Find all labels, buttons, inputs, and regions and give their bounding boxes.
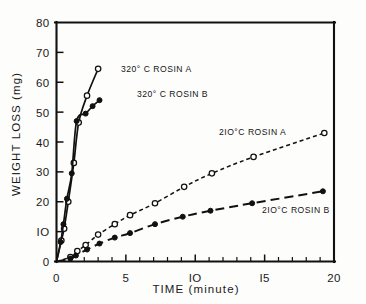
series-3: [57, 189, 326, 262]
data-point: [209, 171, 214, 176]
series-annotation-0: 320° C ROSIN A: [121, 64, 192, 74]
y-ticklabel-20: 20: [36, 196, 50, 208]
data-point: [69, 171, 74, 176]
data-point: [180, 214, 185, 219]
data-point: [85, 247, 90, 252]
data-point: [68, 256, 73, 261]
data-point: [90, 104, 95, 109]
data-point: [251, 154, 256, 159]
x-ticklabel-5: 5: [122, 272, 129, 284]
chart-figure: 0IO20304050607080 05IOI520 WEIGHT LOSS (…: [0, 0, 366, 304]
y-ticklabel-50: 50: [36, 107, 50, 119]
series-annotation-2: 2IO°C ROSIN A: [219, 127, 286, 137]
data-point: [152, 201, 157, 206]
data-point: [322, 130, 327, 135]
series-1: [57, 98, 103, 262]
x-ticklabel-20: 20: [327, 272, 341, 284]
data-point: [250, 201, 255, 206]
data-point: [95, 232, 100, 237]
y-ticklabel-60: 60: [36, 77, 50, 89]
data-point: [112, 235, 117, 240]
data-point: [73, 253, 78, 258]
weight-loss-vs-time-chart: 0IO20304050607080 05IOI520 WEIGHT LOSS (…: [0, 0, 366, 304]
series-0: [57, 66, 101, 261]
data-point: [208, 208, 213, 213]
data-point: [153, 222, 158, 227]
data-point: [127, 212, 132, 217]
y-axis-tick-labels: 0IO20304050607080: [36, 17, 50, 268]
y-ticklabel-80: 80: [36, 17, 50, 29]
series-line-3: [57, 191, 323, 261]
y-ticklabel-10: IO: [37, 226, 50, 238]
plot-axes: [55, 22, 335, 262]
data-point: [61, 222, 66, 227]
x-axis-tick-labels: 05IOI520: [53, 272, 341, 284]
series-annotation-1: 320° C ROSIN B: [137, 89, 208, 99]
data-point: [64, 196, 69, 201]
series-annotations: 320° C ROSIN A320° C ROSIN B2IO°C ROSIN …: [121, 64, 330, 215]
data-point: [320, 189, 325, 194]
y-ticklabel-30: 30: [36, 166, 50, 178]
data-point: [181, 184, 186, 189]
y-ticklabel-70: 70: [36, 47, 50, 59]
series-annotation-3: 2IO°C ROSIN B: [262, 205, 330, 215]
data-point: [74, 119, 79, 124]
x-ticklabel-0: 0: [53, 272, 60, 284]
data-point: [83, 111, 88, 116]
data-point: [97, 98, 102, 103]
data-point: [128, 231, 133, 236]
y-axis-title: WEIGHT LOSS (mg): [10, 72, 22, 196]
series-line-2: [57, 133, 325, 261]
data-point: [97, 241, 102, 246]
x-ticklabel-15: I5: [259, 272, 269, 284]
y-ticklabel-40: 40: [36, 137, 50, 149]
y-ticklabel-0: 0: [43, 256, 50, 268]
x-axis-title: TIME (minute): [152, 283, 239, 295]
x-ticklabel-10: IO: [189, 272, 202, 284]
data-point: [95, 66, 100, 71]
data-point: [84, 93, 89, 98]
data-point: [58, 240, 63, 245]
data-point: [112, 221, 117, 226]
